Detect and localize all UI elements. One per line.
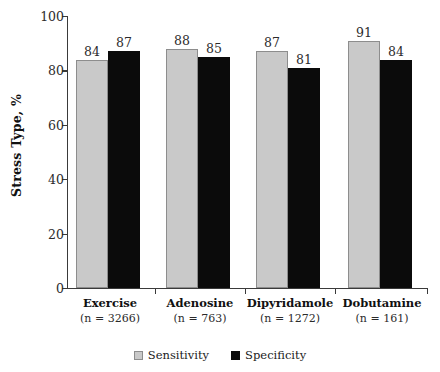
y-axis-title-text: Stress Type, % bbox=[10, 93, 25, 196]
bar-value-label: 81 bbox=[296, 52, 312, 67]
bar-exercise-sensitivity[interactable]: 84 bbox=[76, 60, 108, 289]
x-tick-separator bbox=[427, 288, 428, 294]
y-tick-label: 40 bbox=[48, 172, 64, 187]
x-tick-separator bbox=[335, 288, 336, 294]
bar-chart-figure: Stress Type, % 0 20 40 60 80 100 bbox=[0, 0, 440, 372]
y-tick-label: 0 bbox=[56, 281, 64, 296]
legend-item-sensitivity[interactable]: Sensitivity bbox=[134, 348, 209, 362]
black-square-swatch-icon bbox=[231, 351, 240, 360]
category-name: Dipyridamole bbox=[243, 296, 337, 312]
bar-value-label: 85 bbox=[206, 41, 222, 56]
bar-value-label: 87 bbox=[116, 35, 132, 50]
legend-item-specificity[interactable]: Specificity bbox=[231, 348, 306, 362]
chart-legend: Sensitivity Specificity bbox=[0, 348, 440, 362]
category-sample-size: (n = 763) bbox=[153, 312, 247, 327]
category-label-exercise: Exercise (n = 3266) bbox=[63, 296, 157, 326]
plot-area: 0 20 40 60 80 100 84 bbox=[67, 16, 428, 288]
legend-label: Specificity bbox=[245, 348, 306, 362]
bar-dipyridamole-specificity[interactable]: 81 bbox=[288, 68, 320, 288]
bar-value-label: 84 bbox=[84, 44, 100, 59]
y-tick-label: 60 bbox=[48, 117, 64, 132]
y-axis-title: Stress Type, % bbox=[0, 0, 34, 290]
category-sample-size: (n = 1272) bbox=[243, 312, 337, 327]
category-label-dipyridamole: Dipyridamole (n = 1272) bbox=[243, 296, 337, 326]
y-tick-label: 80 bbox=[48, 63, 64, 78]
bar-adenosine-specificity[interactable]: 85 bbox=[198, 57, 230, 288]
category-name: Dobutamine bbox=[335, 296, 429, 312]
category-label-dobutamine: Dobutamine (n = 161) bbox=[335, 296, 429, 326]
category-sample-size: (n = 161) bbox=[335, 312, 429, 327]
category-label-adenosine: Adenosine (n = 763) bbox=[153, 296, 247, 326]
gray-square-swatch-icon bbox=[134, 351, 143, 360]
bar-dobutamine-sensitivity[interactable]: 91 bbox=[348, 41, 380, 289]
bar-value-label: 87 bbox=[264, 35, 280, 50]
bar-adenosine-sensitivity[interactable]: 88 bbox=[166, 49, 198, 288]
bar-value-label: 84 bbox=[388, 44, 404, 59]
x-tick-separator bbox=[245, 288, 246, 294]
bar-exercise-specificity[interactable]: 87 bbox=[108, 51, 140, 288]
bar-dobutamine-specificity[interactable]: 84 bbox=[380, 60, 412, 289]
bar-value-label: 88 bbox=[174, 33, 190, 48]
bars-layer: 84 87 88 85 87 81 91 8 bbox=[67, 16, 428, 288]
y-tick-label: 100 bbox=[40, 9, 64, 24]
y-tick-label: 20 bbox=[48, 226, 64, 241]
x-axis-line bbox=[67, 288, 428, 289]
bar-dipyridamole-sensitivity[interactable]: 87 bbox=[256, 51, 288, 288]
x-axis-category-labels: Exercise (n = 3266) Adenosine (n = 763) … bbox=[67, 296, 428, 334]
bar-value-label: 91 bbox=[356, 25, 372, 40]
legend-label: Sensitivity bbox=[148, 348, 209, 362]
category-name: Adenosine bbox=[153, 296, 247, 312]
category-sample-size: (n = 3266) bbox=[63, 312, 157, 327]
category-name: Exercise bbox=[63, 296, 157, 312]
x-tick-separator bbox=[155, 288, 156, 294]
